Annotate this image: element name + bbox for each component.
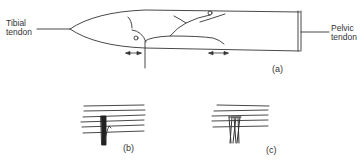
fiber-line: [82, 125, 144, 127]
panel-c-drawing: [212, 105, 269, 143]
fiber-line: [84, 110, 145, 111]
nerve-branch-upper: [170, 15, 210, 36]
fiber-line: [213, 126, 268, 127]
nerve-ending-circle-2: [208, 11, 212, 15]
nerve-branch-lower: [145, 36, 224, 44]
fiber-line: [81, 120, 144, 122]
fiber-line: [83, 115, 145, 117]
nerve-ending-circle-1: [134, 36, 138, 40]
pelvic-label-line2: tendon: [331, 33, 357, 42]
fiber-line: [83, 131, 144, 133]
nerve-branch-top: [200, 14, 225, 22]
panel-a-drawing: [37, 10, 329, 68]
fiber-line: [214, 110, 268, 111]
figure-drawing: [0, 0, 363, 161]
tibial-label-line2: tendon: [6, 28, 32, 37]
fiber-bundle-dark: [101, 116, 106, 145]
fiber-line: [217, 105, 269, 106]
panel-b-label: (b): [123, 143, 134, 153]
pelvic-tendon-label: Pelvic tendon: [331, 24, 357, 42]
panel-b-drawing: [81, 105, 145, 145]
panel-c-label: (c): [266, 145, 277, 155]
nerve-arc: [132, 30, 146, 42]
fiber-line: [212, 115, 268, 116]
nerve-hook: [128, 17, 132, 28]
panel-a-label: (a): [272, 64, 283, 74]
fiber-line: [84, 105, 144, 106]
muscle-outline-bottom: [70, 29, 300, 51]
muscle-outline-top: [70, 10, 300, 29]
figure: Tibial tendon Pelvic tendon (a) (b) (c): [0, 0, 363, 161]
double-arrow-right: [209, 52, 228, 55]
tibial-tendon-label: Tibial tendon: [6, 19, 32, 37]
nerve-branch-twig: [174, 16, 186, 23]
double-arrow-left: [126, 52, 141, 55]
